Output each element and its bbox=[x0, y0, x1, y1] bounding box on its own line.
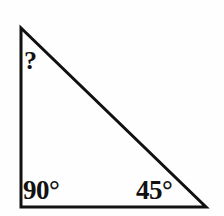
angle-label-acute-angle: 45° bbox=[136, 177, 172, 204]
angle-label-right-angle: 90° bbox=[23, 177, 59, 204]
triangle-diagram-canvas: ? 90° 45° bbox=[0, 0, 224, 216]
angle-label-unknown: ? bbox=[24, 48, 37, 74]
